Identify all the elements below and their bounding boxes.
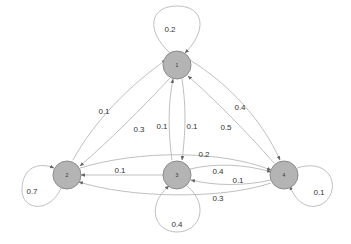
edge-label-3-4: 0.4	[212, 167, 224, 176]
node-1: 1	[163, 51, 191, 79]
edge-label-3-3: 0.4	[171, 220, 183, 229]
node-2: 2	[53, 161, 81, 189]
edge-label-3-2: 0.1	[114, 166, 126, 175]
edge-label-4-3: 0.1	[232, 176, 244, 185]
edge-label-2-4: 0.2	[198, 150, 210, 159]
edge-label-2-2: 0.7	[26, 187, 38, 196]
edge-label-1-2: 0.3	[133, 125, 145, 134]
edge-label-1-3: 0.1	[186, 122, 198, 131]
edge-1-1	[154, 6, 200, 53]
node-4: 4	[270, 161, 298, 189]
edge-1-3	[182, 79, 185, 160]
edge-label-4-2: 0.3	[212, 194, 224, 203]
node-label-1: 1	[176, 62, 179, 68]
edge-label-4-1: 0.5	[220, 123, 232, 132]
node-label-3: 3	[176, 172, 179, 178]
node-label-4: 4	[283, 172, 286, 178]
edge-label-1-1: 0.2	[164, 25, 176, 34]
edge-label-4-4: 0.1	[313, 188, 325, 197]
edge-label-1-4: 0.4	[234, 103, 246, 112]
node-3: 3	[163, 161, 191, 189]
node-label-2: 2	[66, 172, 69, 178]
edge-2-1	[73, 60, 166, 160]
edge-label-2-1: 0.1	[98, 107, 110, 116]
edge-3-1	[169, 79, 173, 160]
edge-label-3-1: 0.1	[156, 122, 168, 131]
edge-4-3	[191, 180, 271, 185]
markov-chain-diagram: 0.2 0.1 0.3 0.1 0.1 0.5 0.4 0.7 0.2 0.1 …	[0, 0, 351, 244]
